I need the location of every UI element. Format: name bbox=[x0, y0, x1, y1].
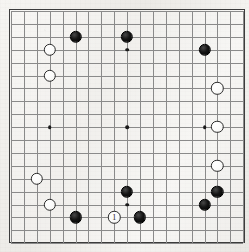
star-point bbox=[125, 203, 129, 207]
move-number-label: 1 bbox=[109, 212, 119, 222]
star-point bbox=[125, 48, 129, 52]
star-point bbox=[48, 125, 52, 129]
grid-line-vertical bbox=[192, 11, 193, 243]
go-board[interactable]: 1 bbox=[9, 9, 245, 243]
grid-line-vertical bbox=[166, 11, 167, 243]
star-point bbox=[203, 125, 207, 129]
grid-line-horizontal bbox=[11, 217, 243, 218]
stone-white-numbered[interactable]: 1 bbox=[108, 211, 120, 223]
grid-line-vertical bbox=[153, 11, 154, 243]
grid-line-horizontal bbox=[11, 140, 243, 141]
grid-line-horizontal bbox=[11, 153, 243, 154]
grid-line-vertical bbox=[243, 11, 244, 243]
go-diagram-page: 1 bbox=[0, 0, 249, 252]
grid-line-horizontal bbox=[11, 243, 243, 244]
grid-line-horizontal bbox=[11, 230, 243, 231]
grid-line-horizontal bbox=[11, 166, 243, 167]
grid-line-vertical bbox=[140, 11, 141, 243]
grid-line-vertical bbox=[179, 11, 180, 243]
grid-line-vertical bbox=[230, 11, 231, 243]
grid-line-horizontal bbox=[11, 179, 243, 180]
star-point bbox=[125, 125, 129, 129]
